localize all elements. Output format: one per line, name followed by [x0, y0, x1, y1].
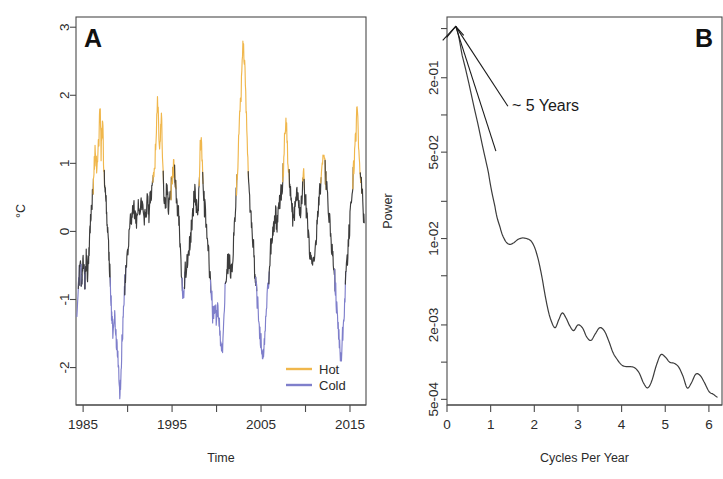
panel-b-letter: B — [695, 24, 713, 52]
panel-a-series-segment-hot — [236, 41, 248, 195]
panel-a-series-segment-neutral — [269, 164, 283, 284]
panel-a-series-segment-hot — [153, 97, 164, 184]
panel-b-ytick-label-5: 1e-02 — [427, 221, 442, 256]
panel-a-series-segment-cold — [211, 280, 226, 352]
panel-b-xtick-label-6: 6 — [705, 417, 713, 432]
panel-b-spectrum-line — [456, 26, 718, 397]
panel-a-xtick-label-2: 1995 — [157, 417, 187, 432]
panel-a-series-group — [77, 41, 364, 399]
panel-a-xtick-label-0: 1985 — [68, 417, 98, 432]
panel-a-series-segment-neutral — [163, 171, 171, 214]
panel-a-xtick-label-6: 2015 — [335, 417, 365, 432]
figure-svg: 3210-1-21985199520052015A°CTimeHotCold2e… — [0, 0, 723, 479]
panel-b-xtick-label-2: 2 — [531, 417, 539, 432]
panel-b-ytick-label-3: 5e-02 — [427, 135, 442, 170]
panel-b-arrowhead — [447, 26, 464, 37]
figure-container: 3210-1-21985199520052015A°CTimeHotCold2e… — [0, 0, 723, 479]
panel-a-ytick-label-1: 2 — [58, 92, 73, 100]
panel-b-xtick-label-5: 5 — [661, 417, 669, 432]
panel-a-ytick-label-2: 1 — [58, 160, 73, 168]
panel-b-ytick-label-1: 2e-01 — [427, 60, 442, 95]
panel-b-xtick-label-1: 1 — [487, 417, 495, 432]
panel-b-xtick-label-0: 0 — [443, 417, 451, 432]
panel-a-series-segment-neutral — [345, 167, 353, 284]
panel-a-y-axis-label: °C — [14, 204, 28, 218]
panel-a-series-segment-cold — [335, 269, 346, 361]
panel-a-series-segment-cold — [110, 275, 125, 399]
panel-a-series-segment-neutral — [85, 179, 94, 289]
panel-a-series-segment-hot — [353, 107, 361, 189]
panel-b-annotation-arrow-0 — [456, 26, 508, 106]
panel-a-series-segment-neutral — [225, 175, 236, 284]
panel-a-ytick-label-0: 3 — [58, 23, 73, 31]
panel-a-series-segment-neutral — [104, 170, 110, 286]
panel-b-ytick-label-7: 2e-03 — [427, 308, 442, 343]
legend-label-cold: Cold — [319, 378, 346, 393]
legend-label-hot: Hot — [319, 362, 340, 377]
panel-a-series-segment-neutral — [185, 177, 200, 288]
panel-a-letter: A — [84, 24, 102, 52]
panel-a-ytick-label-3: 0 — [58, 228, 73, 236]
panel-a-series-segment-neutral — [125, 175, 153, 282]
panel-a-series-segment-neutral — [304, 178, 321, 266]
panel-a-series-segment-neutral — [326, 171, 335, 290]
panel-b-xtick-label-4: 4 — [618, 417, 626, 432]
panel-a-x-axis-label: Time — [207, 451, 234, 465]
panel-a-series-segment-hot — [93, 109, 104, 194]
panel-a-series-segment-neutral — [176, 180, 183, 290]
panel-a-series-segment-neutral — [361, 177, 364, 222]
panel-a-series-segment-neutral — [248, 172, 256, 286]
panel-a-series-segment-cold — [256, 272, 269, 359]
panel-a-series-segment-hot — [283, 118, 290, 187]
panel-b-ytick-label-9: 5e-04 — [427, 382, 442, 417]
panel-b-annotation-label: ~ 5 Years — [512, 97, 579, 114]
panel-b-annotation-arrow-1 — [456, 26, 496, 151]
panel-b-y-axis-label: Power — [381, 193, 395, 228]
panel-a-xtick-label-4: 2005 — [246, 417, 276, 432]
panel-a-series-segment-neutral — [203, 172, 211, 292]
panel-a-ytick-label-5: -2 — [58, 362, 73, 374]
panel-a-ytick-label-4: -1 — [58, 293, 73, 305]
panel-b-x-axis-label: Cycles Per Year — [540, 451, 629, 465]
panel-b-xtick-label-3: 3 — [574, 417, 582, 432]
panel-a-series-segment-neutral — [289, 170, 303, 227]
